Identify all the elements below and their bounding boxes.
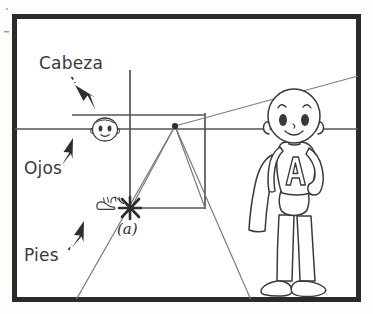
- scan-tick-mark: [4, 31, 9, 32]
- perspective-diagram: Cabeza Ojos Pies (a): [0, 0, 373, 314]
- diagram-canvas: [0, 0, 373, 314]
- label-pies: Pies: [24, 247, 59, 264]
- label-cabeza: Cabeza: [39, 55, 103, 72]
- hero-right-leg: [297, 216, 315, 281]
- station-point-x-marker: [119, 197, 141, 219]
- hero-right-eye: [301, 114, 309, 126]
- label-point-a: (a): [117, 222, 138, 237]
- label-ojos: Ojos: [24, 160, 62, 177]
- scan-speck: [6, 8, 8, 10]
- vanishing-point-dot: [172, 123, 178, 129]
- hero-left-eye: [279, 114, 287, 126]
- hero-left-leg: [277, 215, 294, 281]
